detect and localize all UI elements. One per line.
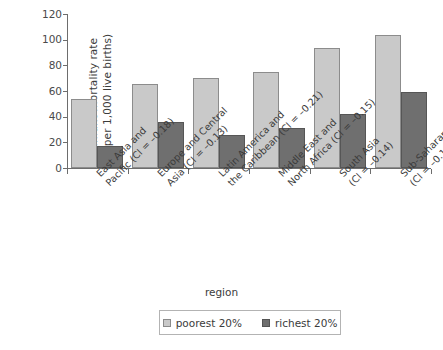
x-category-label-line-1: Sub-Saharan Africa: [398, 171, 407, 180]
x-category-label-line-1: Latin America and: [216, 171, 225, 180]
legend-swatch-poorest: [163, 319, 171, 327]
y-tick-mark: [63, 40, 67, 41]
x-category-label-line-2: Asia (CI = –0.13): [164, 180, 173, 189]
x-category-label-line-1: South Asia: [337, 171, 346, 180]
legend-label: richest 20%: [275, 317, 337, 329]
y-tick-mark: [63, 142, 67, 143]
x-category-label-line-1: Europe and Central: [155, 171, 164, 180]
x-category-label: Middle East andNorth Africa (CI = –0.15): [276, 171, 294, 189]
x-category-label: East Asia andPacific (CI = –0.18): [94, 171, 112, 189]
y-tick-label: 100: [36, 34, 62, 44]
x-category-label: Europe and CentralAsia (CI = –0.13): [155, 171, 173, 189]
legend-entry: poorest 20%: [163, 317, 242, 329]
y-tick-label: 120: [36, 9, 62, 19]
y-tick-label: 0: [36, 163, 62, 173]
y-tick-mark: [63, 117, 67, 118]
y-tick-mark: [63, 65, 67, 66]
y-axis-line: [67, 14, 68, 168]
bar-poorest: [71, 99, 97, 168]
legend-swatch-richest: [262, 319, 270, 327]
x-category-label-line-2: (CI = –0.10): [407, 180, 416, 189]
bar-chart: infant mortality rate (per 1,000 live bi…: [0, 0, 443, 350]
x-category-label: South Asia(CI = –0.14): [337, 171, 355, 189]
y-tick-mark: [63, 91, 67, 92]
legend-entry: richest 20%: [262, 317, 337, 329]
x-category-label-line-1: East Asia and: [94, 171, 103, 180]
x-category-label-line-2: North Africa (CI = –0.15): [285, 180, 294, 189]
x-category-label-line-2: Pacific (CI = –0.18): [103, 180, 112, 189]
y-tick-label: 20: [36, 137, 62, 147]
chart-legend: poorest 20%richest 20%: [159, 310, 341, 335]
y-tick-label: 40: [36, 111, 62, 121]
x-tick-mark: [67, 169, 68, 174]
x-category-label: Sub-Saharan Africa(CI = –0.10): [398, 171, 416, 189]
y-axis-title: infant mortality rate (per 1,000 live bi…: [2, 14, 38, 170]
x-category-label-line-2: (CI = –0.14): [346, 180, 355, 189]
x-category-label: Latin America andthe Caribbean (CI = –0.…: [216, 171, 234, 189]
y-tick-mark: [63, 14, 67, 15]
y-tick-label: 80: [36, 60, 62, 70]
x-category-label-line-1: Middle East and: [276, 171, 285, 180]
legend-label: poorest 20%: [176, 317, 242, 329]
x-axis-title: region: [0, 286, 443, 298]
y-tick-label: 60: [36, 86, 62, 96]
x-category-label-line-2: the Caribbean (CI = –0.21): [225, 180, 234, 189]
